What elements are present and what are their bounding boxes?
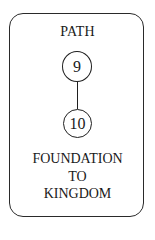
path-caption: FOUNDATION TO KINGDOM (0, 150, 155, 203)
node-10-label: 10 (70, 115, 86, 133)
connector-line (77, 82, 78, 109)
caption-line-1: FOUNDATION (0, 150, 155, 168)
node-9-circle: 9 (62, 51, 92, 82)
path-title: PATH (0, 24, 155, 40)
node-10-circle: 10 (63, 109, 92, 138)
caption-line-3: KINGDOM (0, 185, 155, 203)
node-9-label: 9 (73, 58, 81, 76)
caption-line-2: TO (0, 168, 155, 186)
